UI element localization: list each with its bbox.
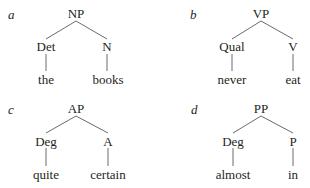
word-leaf: almost <box>216 168 251 181</box>
root-node: PP <box>254 102 268 115</box>
tree-branches <box>0 0 310 188</box>
word-leaf: the <box>38 73 54 86</box>
category-node: Deg <box>35 135 57 148</box>
category-node: Det <box>37 40 56 53</box>
panel-letter: d <box>191 103 198 116</box>
word-leaf: quite <box>33 168 59 181</box>
panel-letter: c <box>8 103 14 116</box>
category-node: Qual <box>219 40 244 53</box>
category-node: P <box>289 135 296 148</box>
root-node: AP <box>68 102 85 115</box>
root-node: VP <box>253 7 270 20</box>
category-node: A <box>103 135 112 148</box>
root-node: NP <box>68 7 85 20</box>
word-leaf: certain <box>90 168 125 181</box>
category-node: V <box>288 40 297 53</box>
word-leaf: in <box>288 168 298 181</box>
category-node: Deg <box>222 135 244 148</box>
word-leaf: books <box>92 73 123 86</box>
panel-letter: b <box>190 8 197 21</box>
panel-letter: a <box>8 8 15 21</box>
word-leaf: eat <box>285 73 300 86</box>
word-leaf: never <box>218 73 247 86</box>
category-node: N <box>102 40 111 53</box>
